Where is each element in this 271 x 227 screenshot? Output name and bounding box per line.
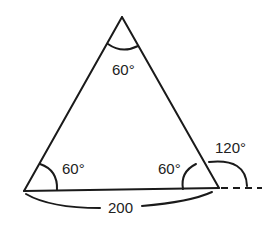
top-angle-label: 60° — [112, 62, 135, 77]
bottom-right-angle-label: 60° — [158, 161, 181, 176]
bottom-right-angle-arc — [183, 164, 196, 189]
bottom-left-angle-label: 60° — [62, 161, 85, 176]
base-brace-right — [142, 192, 212, 206]
triangle-drawing — [0, 0, 271, 227]
triangle-diagram: 60° 60° 60° 120° 200 — [0, 0, 271, 227]
base-side — [24, 188, 219, 191]
top-angle-arc — [108, 44, 138, 50]
bottom-left-angle-arc — [40, 164, 57, 190]
exterior-angle-label: 120° — [215, 140, 246, 155]
base-brace-left — [26, 194, 100, 208]
base-length-label: 200 — [108, 200, 133, 215]
